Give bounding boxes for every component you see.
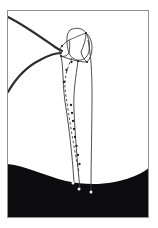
figure-container — [0, 0, 158, 228]
anatomical-line-drawing — [0, 0, 158, 228]
